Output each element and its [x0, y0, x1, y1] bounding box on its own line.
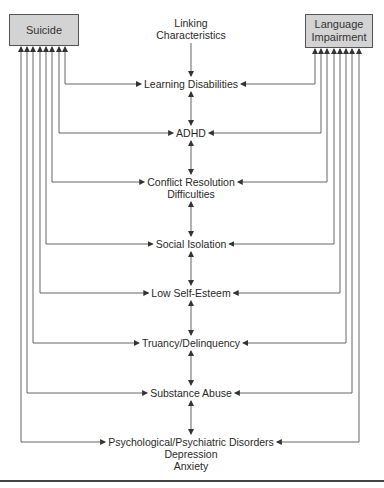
suicide-label: Suicide — [26, 24, 62, 37]
node-psychological-disorders-line-2: Depression — [108, 448, 274, 460]
node-conflict-resolution: Conflict ResolutionDifficulties — [147, 176, 235, 200]
node-truancy-delinquency-line-1: Truancy/Delinquency — [142, 337, 240, 349]
language-impairment-line-2: Impairment — [311, 31, 366, 44]
language-impairment-box: Language Impairment — [305, 14, 373, 48]
bottom-rule — [0, 480, 384, 482]
node-substance-abuse-line-1: Substance Abuse — [150, 387, 232, 399]
language-impairment-line-1: Language — [315, 18, 364, 31]
node-learning-disabilities-line-1: Learning Disabilities — [144, 78, 238, 90]
node-low-self-esteem-line-1: Low Self-Esteem — [151, 287, 230, 299]
suicide-box: Suicide — [9, 14, 79, 46]
node-conflict-resolution-line-1: Conflict Resolution — [147, 176, 235, 188]
node-low-self-esteem: Low Self-Esteem — [151, 287, 230, 299]
node-social-isolation-line-1: Social Isolation — [156, 238, 227, 250]
node-social-isolation: Social Isolation — [156, 238, 227, 250]
node-conflict-resolution-line-2: Difficulties — [147, 188, 235, 200]
node-learning-disabilities: Learning Disabilities — [144, 78, 238, 90]
node-substance-abuse: Substance Abuse — [150, 387, 232, 399]
node-psychological-disorders-line-3: Anxiety — [108, 460, 274, 472]
node-adhd: ADHD — [176, 127, 206, 139]
node-psychological-disorders: Psychological/Psychiatric DisordersDepre… — [108, 436, 274, 472]
linking-characteristics-title: Linking Characteristics — [156, 17, 225, 41]
node-truancy-delinquency: Truancy/Delinquency — [142, 337, 240, 349]
node-adhd-line-1: ADHD — [176, 127, 206, 139]
node-psychological-disorders-line-1: Psychological/Psychiatric Disorders — [108, 436, 274, 448]
linking-characteristics-diagram: Suicide Language Impairment Linking Char… — [0, 0, 384, 488]
